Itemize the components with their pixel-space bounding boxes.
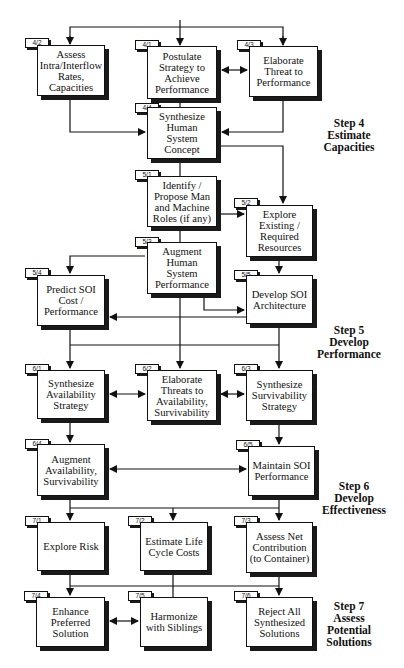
process-box-7-6[interactable]: Reject All Synthesized Solutions [246,597,313,647]
process-box-4-1[interactable]: Postulate Strategy to Achieve Performanc… [147,46,217,99]
process-box-6-4[interactable]: Augment Availability, Survivability [37,444,105,496]
box-label: Enhance Preferred Solution [51,606,90,639]
process-box-7-1[interactable]: Explore Risk [37,522,105,571]
box-label: Augment Availability, Survivability [43,454,98,487]
process-box-5-4[interactable]: Predict SOI Cost / Performance [37,275,105,326]
step-6-label: Step 6 Develop Effectiveness [306,480,402,516]
box-label: Elaborate Threats to Availability, Survi… [154,374,209,418]
box-label: Develop SOI Architecture [252,289,308,311]
process-box-5-5[interactable]: Develop SOI Architecture [246,275,313,324]
box-label: Synthesize Survivability Strategy [252,379,307,412]
box-label: Reject All Synthesized Solutions [254,606,305,639]
process-box-4-3[interactable]: Elaborate Threat to Performance [249,46,318,97]
step-7-label: Step 7 Assess Potential Solutions [304,600,394,648]
process-box-5-3[interactable]: Augment Human System Performance [147,242,217,294]
box-label: Estimate Life Cycle Costs [145,536,202,558]
process-box-5-1[interactable]: Identify / Propose Man and Machine Roles… [147,176,217,227]
process-box-6-3[interactable]: Synthesize Survivability Strategy [246,370,313,421]
process-box-5-2[interactable]: Explore Existing / Required Resources [246,205,313,257]
process-flow-diagram: 4/2 Assess Intra/Interflow Rates, Capaci… [0,0,404,668]
process-box-6-1[interactable]: Synthesize Availability Strategy [37,370,105,419]
box-label: Elaborate Threat to Performance [256,55,310,88]
box-label: Explore Risk [43,541,99,552]
box-label: Assess Intra/Interflow Rates, Capacities [40,49,102,93]
step-4-label: Step 4 Estimate Capacities [304,117,394,153]
box-label: Synthesize Availability Strategy [46,378,96,411]
box-label: Maintain SOI Performance [253,460,311,482]
step-5-label: Step 5 Develop Performance [304,324,394,360]
process-box-7-3[interactable]: Assess Net Contribution (to Container) [246,522,313,573]
process-box-7-5[interactable]: Harmonize with Siblings [140,597,208,647]
process-box-7-4[interactable]: Enhance Preferred Solution [36,597,105,647]
box-label: Synthesize Human System Concept [159,111,205,155]
box-label: Explore Existing / Required Resources [258,209,302,253]
box-label: Postulate Strategy to Achieve Performanc… [155,51,209,95]
process-box-6-2[interactable]: Elaborate Threats to Availability, Survi… [147,370,217,421]
process-box-4-4[interactable]: Synthesize Human System Concept [147,107,217,159]
process-box-6-5[interactable]: Maintain SOI Performance [248,446,315,496]
box-label: Identify / Propose Man and Machine Roles… [153,180,211,224]
box-label: Assess Net Contribution (to Container) [250,531,310,564]
box-label: Harmonize with Siblings [146,611,202,633]
box-label: Predict SOI Cost / Performance [44,284,98,317]
box-label: Augment Human System Performance [155,246,209,290]
process-box-4-2[interactable]: Assess Intra/Interflow Rates, Capacities [37,45,105,96]
process-box-7-2[interactable]: Estimate Life Cycle Costs [140,522,208,571]
